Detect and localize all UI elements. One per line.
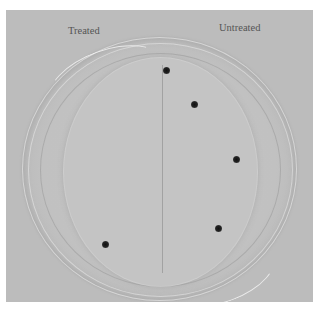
specimen-dot: [163, 67, 170, 74]
specimen-dot: [215, 225, 222, 232]
treated-label: Treated: [68, 25, 100, 36]
center-divider-line: [162, 65, 163, 273]
specimen-dot: [233, 156, 240, 163]
specimen-dot: [102, 241, 109, 248]
petri-dish-inner: [64, 58, 257, 286]
petri-dish-photo: Treated Untreated: [6, 10, 313, 302]
specimen-dot: [191, 101, 198, 108]
untreated-label: Untreated: [219, 22, 260, 33]
